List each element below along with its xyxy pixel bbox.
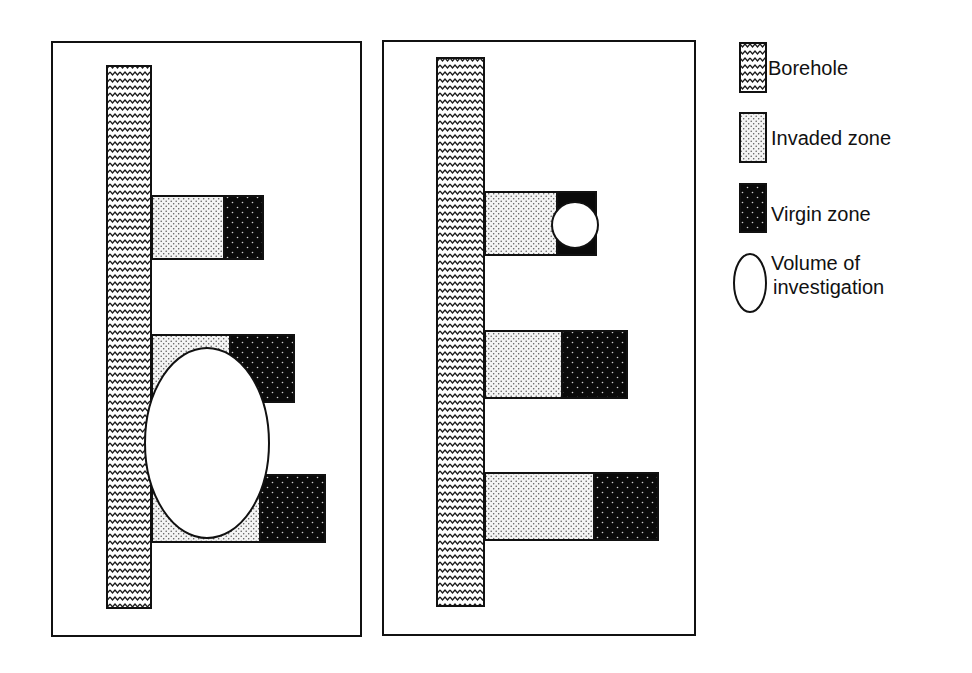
zone-bar-3 [485, 473, 658, 540]
borehole-invasion-diagram [0, 0, 972, 673]
legend-swatch-borehole [740, 43, 766, 92]
virgin-zone [224, 196, 263, 259]
legend-swatch-virgin [740, 184, 766, 232]
legend-label-volume-line2: investigation [773, 276, 884, 299]
legend [734, 43, 766, 312]
panel-right [383, 41, 695, 635]
zone-bar-2 [485, 331, 627, 398]
virgin-zone [594, 473, 658, 540]
borehole [437, 58, 484, 606]
panel-left [52, 42, 361, 636]
legend-label-volume-line1: Volume of [771, 252, 860, 275]
invaded-zone [485, 331, 562, 398]
invaded-zone [485, 192, 557, 255]
borehole [107, 66, 151, 608]
legend-label-borehole: Borehole [768, 57, 848, 80]
virgin-zone [562, 331, 627, 398]
legend-label-virgin: Virgin zone [771, 203, 871, 226]
zone-bar-1 [152, 196, 263, 259]
zone-bar-1 [485, 192, 598, 255]
legend-label-invaded: Invaded zone [771, 127, 891, 150]
invaded-zone [485, 473, 594, 540]
legend-swatch-invaded [740, 113, 766, 162]
volume-of-investigation-small [552, 202, 598, 248]
volume-of-investigation-large [145, 348, 269, 538]
legend-swatch-volume [734, 254, 766, 312]
virgin-zone [260, 475, 325, 542]
invaded-zone [152, 196, 224, 259]
